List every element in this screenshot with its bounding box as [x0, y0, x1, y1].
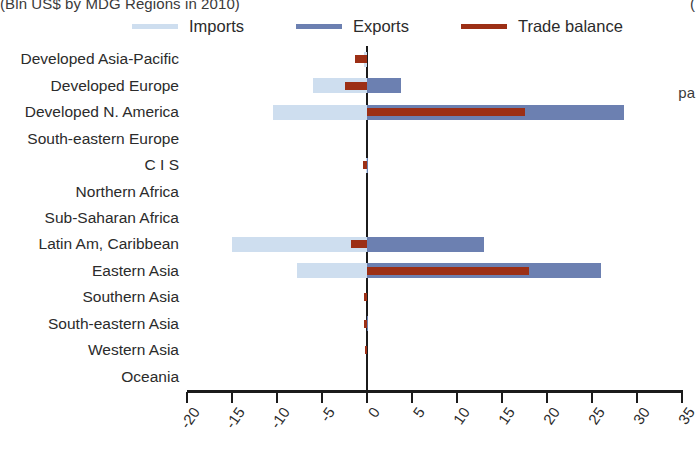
legend-item-imports[interactable]: Imports — [132, 18, 244, 35]
x-tick-label-11: 35 — [648, 404, 697, 454]
x-tick-9 — [591, 392, 593, 403]
legend-swatch-exports — [296, 24, 342, 29]
bar-balance-8 — [367, 267, 529, 275]
category-label-7: Latin Am, Caribbean — [0, 236, 179, 252]
x-tick-label-0: -20 — [153, 404, 202, 454]
x-tick-1 — [231, 392, 233, 403]
x-tick-3 — [321, 392, 323, 403]
legend-swatch-balance — [461, 24, 507, 29]
legend-item-balance[interactable]: Trade balance — [461, 18, 623, 35]
x-tick-11 — [681, 392, 683, 403]
bar-imports-2 — [273, 105, 368, 120]
x-tick-10 — [636, 392, 638, 403]
category-label-6: Sub-Saharan Africa — [0, 210, 179, 226]
bar-exports-10 — [367, 316, 368, 331]
x-tick-label-1: -15 — [198, 404, 247, 454]
legend-label-imports: Imports — [189, 18, 244, 35]
bar-balance-2 — [367, 108, 525, 116]
x-tick-label-10: 30 — [603, 404, 652, 454]
category-label-0: Developed Asia-Pacific — [0, 51, 179, 67]
chart-title: (Bln US$ by MDG Regions in 2010) — [0, 0, 240, 12]
bar-exports-7 — [367, 237, 484, 252]
bar-balance-1 — [345, 82, 368, 90]
category-label-10: South-eastern Asia — [0, 316, 179, 332]
legend-swatch-imports — [132, 24, 178, 29]
x-tick-label-8: 20 — [513, 404, 562, 454]
chart-legend: ImportsExportsTrade balance — [132, 15, 623, 37]
x-tick-0 — [186, 392, 188, 403]
category-label-8: Eastern Asia — [0, 263, 179, 279]
x-tick-5 — [411, 392, 413, 403]
legend-label-exports: Exports — [353, 18, 409, 35]
x-tick-2 — [276, 392, 278, 403]
chart-canvas: (Bln US$ by MDG Regions in 2010) ( pa Im… — [0, 0, 697, 454]
x-tick-8 — [546, 392, 548, 403]
plot-area — [187, 46, 682, 390]
category-label-9: Southern Asia — [0, 289, 179, 305]
category-label-12: Oceania — [0, 369, 179, 385]
bar-balance-10 — [364, 320, 367, 328]
x-tick-7 — [501, 392, 503, 403]
category-axis-labels: Developed Asia-PacificDeveloped EuropeDe… — [0, 46, 182, 390]
category-label-11: Western Asia — [0, 342, 179, 358]
category-label-5: Northern Africa — [0, 184, 179, 200]
bar-balance-7 — [351, 240, 367, 248]
bar-balance-9 — [364, 293, 367, 301]
chart-title-right-fragment: ( — [690, 0, 695, 12]
bar-balance-11 — [365, 346, 367, 354]
bar-exports-4 — [367, 158, 368, 173]
x-tick-label-3: -5 — [288, 404, 337, 454]
x-tick-label-2: -10 — [243, 404, 292, 454]
x-tick-label-5: 5 — [378, 404, 427, 454]
bar-balance-0 — [355, 55, 367, 63]
x-tick-label-4: 0 — [333, 404, 382, 454]
bar-balance-4 — [363, 161, 367, 169]
category-label-1: Developed Europe — [0, 78, 179, 94]
zero-reference-line — [366, 46, 368, 390]
category-label-4: C I S — [0, 157, 179, 173]
x-tick-label-6: 10 — [423, 404, 472, 454]
bar-imports-8 — [297, 263, 367, 278]
x-axis-line — [187, 390, 683, 393]
legend-label-balance: Trade balance — [518, 18, 623, 35]
legend-item-exports[interactable]: Exports — [296, 18, 409, 35]
category-label-3: South-eastern Europe — [0, 131, 179, 147]
bar-imports-7 — [232, 237, 367, 252]
x-tick-4 — [366, 392, 368, 403]
category-label-2: Developed N. America — [0, 104, 179, 120]
bar-exports-1 — [367, 78, 401, 93]
x-tick-6 — [456, 392, 458, 403]
x-tick-label-9: 25 — [558, 404, 607, 454]
x-tick-label-7: 15 — [468, 404, 517, 454]
